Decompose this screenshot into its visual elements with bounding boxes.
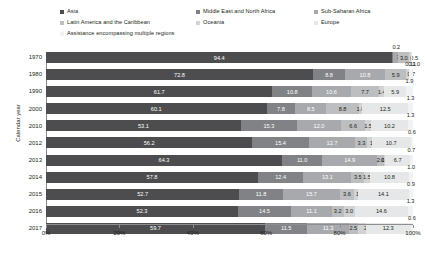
- bar-value-label: 10.8: [384, 174, 395, 180]
- x-axis-tick-label: 40%: [187, 230, 199, 236]
- bar-value-label: 52.3: [137, 208, 148, 214]
- stacked-bar: 52.314.511.13.23.014.61.3: [46, 206, 413, 217]
- bar-value-label: 8.8: [325, 72, 333, 78]
- bar-segment[interactable]: 56.2: [46, 137, 252, 148]
- x-axis-tick: [340, 225, 341, 228]
- stacked-bar: 72.88.810.85.90.70.11.0: [46, 69, 413, 80]
- bar-value-label: 1.0: [412, 61, 420, 67]
- bar-value-label: 12.0: [314, 123, 325, 129]
- legend-row: Latin America and the CaribbeanOceaniaEu…: [60, 20, 412, 26]
- x-axis-tick: [119, 225, 120, 228]
- bar-segment[interactable]: 61.7: [46, 86, 272, 97]
- bar-segment[interactable]: 15.3: [241, 120, 297, 131]
- bar-segment[interactable]: 8.5: [295, 103, 326, 114]
- legend-item-latin-america-and-the-caribbean[interactable]: Latin America and the Caribbean: [60, 20, 196, 26]
- bar-value-label: 0.7: [407, 147, 415, 153]
- legend-item-asia[interactable]: Asia: [60, 9, 196, 15]
- bar-row: 201457.812.413.13.51.510.81.0: [46, 172, 413, 183]
- y-axis-tick-label: 2012: [14, 140, 42, 146]
- bar-segment[interactable]: 13.1: [303, 172, 351, 183]
- bar-value-label: 13.1: [322, 174, 333, 180]
- bar-segment[interactable]: 3.0: [344, 206, 355, 217]
- bar-segment[interactable]: 11.8: [239, 189, 282, 200]
- bar-segment[interactable]: 10.8: [370, 172, 410, 183]
- bar-segment[interactable]: 64.3: [46, 155, 282, 166]
- bar-segment[interactable]: 11.0: [282, 155, 322, 166]
- bar-value-label: 6.6: [349, 123, 357, 129]
- bar-segment[interactable]: 3.6: [340, 189, 353, 200]
- bar-segment[interactable]: 15.7: [283, 189, 341, 200]
- bar-segment[interactable]: 14.5: [238, 206, 291, 217]
- bar-value-label: 1.3: [407, 112, 415, 118]
- bar-segment[interactable]: 52.3: [46, 206, 238, 217]
- y-axis-tick-label: 2000: [14, 106, 42, 112]
- y-axis-tick-label: 1970: [14, 54, 42, 60]
- y-axis-tick-label: 1990: [14, 88, 42, 94]
- bar-value-label: 1.9: [406, 78, 414, 84]
- x-axis-tick-label: 60%: [260, 230, 272, 236]
- bar-segment[interactable]: 8.8: [313, 69, 345, 80]
- bar-segment[interactable]: 10.8: [345, 69, 385, 80]
- legend-label: Assistance encompassing multiple regions: [67, 31, 174, 37]
- bar-segment[interactable]: 14.1: [358, 189, 410, 200]
- bar-segment[interactable]: 60.1: [46, 103, 267, 114]
- bar-segment[interactable]: 15.4: [252, 137, 309, 148]
- legend-item-oceania[interactable]: Oceania: [196, 20, 314, 26]
- bar-value-label: 94.4: [214, 55, 225, 61]
- bar-row: 200060.17.88.58.81.012.51.3: [46, 103, 413, 114]
- bar-segment[interactable]: 3.3: [355, 137, 367, 148]
- legend-swatch-icon: [314, 10, 318, 14]
- bar-value-label: 0.6: [408, 215, 416, 221]
- bar-value-label: 0.2: [392, 44, 400, 50]
- bar-value-label: 10.8: [360, 72, 371, 78]
- bar-value-label: 14.5: [259, 208, 270, 214]
- legend-swatch-icon: [314, 21, 318, 25]
- bar-segment[interactable]: 12.0: [297, 120, 341, 131]
- bar-segment[interactable]: 8.8: [326, 103, 358, 114]
- bar-segment[interactable]: 7.8: [267, 103, 296, 114]
- legend-item-assistance-encompassing-multiple-regions[interactable]: Assistance encompassing multiple regions: [60, 31, 196, 37]
- bar-value-label: 10.2: [384, 123, 395, 129]
- bar-value-label: 14.1: [378, 191, 389, 197]
- bar-segment[interactable]: 10.2: [371, 120, 408, 131]
- bar-segment[interactable]: 14.6: [355, 206, 409, 217]
- bar-segment[interactable]: 10.8: [272, 86, 312, 97]
- bar-row: 201256.215.412.73.31.110.70.6: [46, 137, 413, 148]
- bar-row: 201053.115.312.06.61.510.21.3: [46, 120, 413, 131]
- bar-segment[interactable]: 72.8: [46, 69, 313, 80]
- y-axis-tick-label: 1980: [14, 71, 42, 77]
- bar-segment[interactable]: 7.7: [351, 86, 379, 97]
- bar-segment[interactable]: 12.4: [258, 172, 303, 183]
- bar-segment[interactable]: 5.9: [385, 69, 407, 80]
- bar-segment[interactable]: 3.2: [332, 206, 344, 217]
- bar-segment[interactable]: 10.7: [372, 137, 411, 148]
- legend-swatch-icon: [60, 21, 64, 25]
- legend-item-sub-saharan-africa[interactable]: Sub-Saharan Africa: [314, 9, 370, 15]
- legend-label: Asia: [67, 9, 78, 15]
- x-axis-tick-label: 20%: [113, 230, 125, 236]
- bar-value-label: 57.8: [147, 174, 158, 180]
- x-axis-tick: [413, 225, 414, 228]
- bar-segment[interactable]: 10.6: [312, 86, 351, 97]
- bar-segment[interactable]: 5.9: [384, 86, 406, 97]
- legend-swatch-icon: [196, 10, 200, 14]
- bar-segment[interactable]: 11.1: [291, 206, 332, 217]
- legend-label: Middle East and North Africa: [203, 9, 275, 15]
- bar-segment[interactable]: 12.5: [362, 103, 408, 114]
- bar-value-label: 12.5: [380, 106, 391, 112]
- bar-segment[interactable]: 52.7: [46, 189, 239, 200]
- bar-row: 201364.311.014.92.00.36.70.7: [46, 155, 413, 166]
- bar-segment[interactable]: 6.6: [341, 120, 365, 131]
- bar-value-label: 3.0: [400, 55, 408, 61]
- bar-segment[interactable]: 12.7: [309, 137, 356, 148]
- bar-segment[interactable]: 53.1: [46, 120, 241, 131]
- legend-item-europe[interactable]: Europe: [314, 20, 339, 26]
- bar-segment[interactable]: 94.4: [46, 52, 392, 63]
- bar-value-label: 7.8: [277, 106, 285, 112]
- legend-row: AsiaMiddle East and North AfricaSub-Saha…: [60, 9, 412, 15]
- bar-segment[interactable]: 57.8: [46, 172, 258, 183]
- bar-row: 198072.88.810.85.90.70.11.0: [46, 69, 413, 80]
- legend-item-middle-east-and-north-africa[interactable]: Middle East and North Africa: [196, 9, 314, 15]
- bar-segment[interactable]: 14.9: [322, 155, 377, 166]
- bar-value-label: 61.7: [154, 89, 165, 95]
